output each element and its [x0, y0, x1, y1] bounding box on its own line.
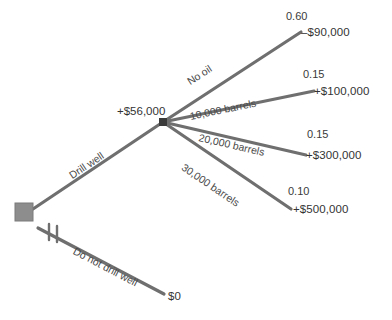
chance-node-expected-value: +$56,000: [117, 105, 165, 117]
probability-20000-barrels: 0.15: [307, 128, 328, 140]
payoff-no-oil: –$90,000: [301, 26, 350, 38]
decision-node[interactable]: [15, 203, 33, 221]
probability-10000-barrels: 0.15: [303, 68, 324, 80]
payoff-do-not-drill-well: $0: [168, 290, 181, 302]
chance-node[interactable]: [159, 118, 167, 126]
payoff-30000-barrels: +$500,000: [293, 203, 349, 215]
branch-line-drill-well: [33, 122, 163, 209]
probability-no-oil: 0.60: [286, 10, 307, 22]
payoff-20000-barrels: +$300,000: [306, 149, 362, 161]
decision-tree-diagram: +$56,000 Drill well Do not drill well $0…: [0, 0, 392, 320]
payoff-10000-barrels: +$100,000: [314, 85, 370, 97]
probability-30000-barrels: 0.10: [288, 185, 309, 197]
